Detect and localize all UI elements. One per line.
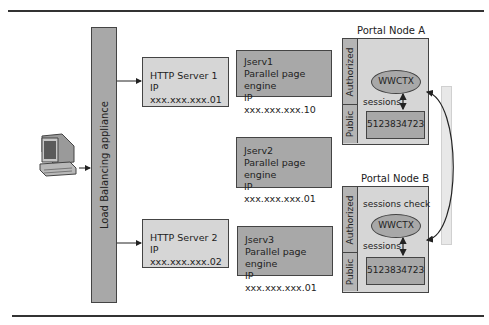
wwctx-context: WWCTX bbox=[371, 214, 421, 238]
jserv-ip: IP xxx.xxx.xxx.01 bbox=[245, 270, 325, 294]
public-label: Public bbox=[345, 111, 355, 138]
portal-node-b-title: Portal Node B bbox=[361, 173, 429, 184]
jserv-ip: IP xxx.xxx.xxx.01 bbox=[244, 181, 324, 205]
jserv-role: Parallel page engine bbox=[244, 157, 324, 181]
sessions-label: sessions bbox=[363, 97, 401, 107]
authorized-zone: Authorized bbox=[343, 39, 358, 105]
authorized-label: Authorized bbox=[345, 47, 355, 96]
jserv-role: Parallel page engine bbox=[245, 246, 325, 270]
http-server-2: HTTP Server 2 IP xxx.xxx.xxx.02 bbox=[142, 219, 229, 268]
sessions-check-label: sessions check bbox=[363, 199, 430, 209]
http-server-name: HTTP Server 1 bbox=[150, 70, 221, 82]
public-label: Public bbox=[345, 259, 355, 286]
top-rule bbox=[8, 10, 484, 12]
jserv-1: Jserv1 Parallel page engine IP xxx.xxx.x… bbox=[236, 50, 332, 97]
jserv-name: Jserv1 bbox=[244, 56, 324, 68]
session-sync-bar bbox=[441, 86, 452, 245]
desktop-computer-icon bbox=[36, 132, 86, 180]
wwctx-context: WWCTX bbox=[371, 70, 421, 94]
http-server-ip: IP xxx.xxx.xxx.01 bbox=[150, 82, 221, 106]
http-server-ip: IP xxx.xxx.xxx.02 bbox=[150, 244, 221, 268]
jserv-3: Jserv3 Parallel page engine IP xxx.xxx.x… bbox=[237, 226, 333, 276]
load-balancer-label: Load Balancing appliance bbox=[99, 101, 110, 229]
http-server-name: HTTP Server 2 bbox=[150, 232, 221, 244]
portal-node-a-title: Portal Node A bbox=[357, 25, 425, 36]
portal-node-b: Authorized Public sessions check WWCTX s… bbox=[342, 186, 429, 293]
jserv-role: Parallel page engine bbox=[244, 68, 324, 92]
jserv-2: Jserv2 Parallel page engine IP xxx.xxx.x… bbox=[236, 137, 332, 188]
portal-node-a: Authorized Public WWCTX sessions 5123834… bbox=[342, 38, 429, 145]
sessions-label: sessions bbox=[363, 241, 401, 251]
session-id-store: 5123834723 bbox=[366, 257, 425, 285]
session-id-store: 5123834723 bbox=[366, 111, 425, 139]
jserv-name: Jserv3 bbox=[245, 234, 325, 246]
http-server-1: HTTP Server 1 IP xxx.xxx.xxx.01 bbox=[142, 57, 229, 107]
authorized-zone: Authorized bbox=[343, 187, 358, 253]
public-zone: Public bbox=[343, 253, 358, 291]
load-balancer: Load Balancing appliance bbox=[91, 27, 117, 303]
jserv-name: Jserv2 bbox=[244, 145, 324, 157]
public-zone: Public bbox=[343, 105, 358, 143]
jserv-ip: IP xxx.xxx.xxx.10 bbox=[244, 92, 324, 116]
bottom-rule bbox=[12, 315, 484, 317]
authorized-label: Authorized bbox=[345, 195, 355, 244]
